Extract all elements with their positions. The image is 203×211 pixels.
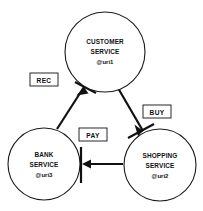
edge-label-pay-text: PAY bbox=[86, 132, 100, 139]
service-diagram: CUSTOMER SERVICE @uri1 BANK SERVICE @uri… bbox=[0, 0, 203, 211]
edge-buy-line bbox=[118, 88, 143, 131]
edge-label-rec[interactable]: REC bbox=[30, 73, 58, 86]
shopping-service-uri: @uri2 bbox=[152, 173, 170, 179]
bank-service-node[interactable]: BANK SERVICE @uri3 bbox=[8, 128, 80, 200]
bank-service-label-line1: BANK bbox=[34, 151, 53, 158]
edge-label-pay[interactable]: PAY bbox=[79, 128, 107, 141]
bank-service-uri: @uri3 bbox=[36, 172, 54, 178]
shopping-service-node[interactable]: SHOPPING SERVICE @uri2 bbox=[124, 129, 196, 201]
edge-label-buy-text: BUY bbox=[150, 109, 165, 116]
shopping-service-label-line2: SERVICE bbox=[146, 162, 176, 169]
edge-pay bbox=[81, 147, 123, 183]
edge-pay-arrowhead bbox=[82, 160, 91, 169]
customer-service-node[interactable]: CUSTOMER SERVICE @uri1 bbox=[65, 12, 145, 92]
bank-service-label-line2: SERVICE bbox=[30, 161, 60, 168]
customer-service-label-line1: CUSTOMER bbox=[86, 38, 124, 45]
customer-service-label-line2: SERVICE bbox=[91, 48, 121, 55]
edge-label-buy[interactable]: BUY bbox=[143, 105, 171, 118]
customer-service-uri: @uri1 bbox=[97, 59, 115, 65]
edge-label-rec-text: REC bbox=[37, 77, 52, 84]
shopping-service-label-line1: SHOPPING bbox=[143, 152, 178, 159]
